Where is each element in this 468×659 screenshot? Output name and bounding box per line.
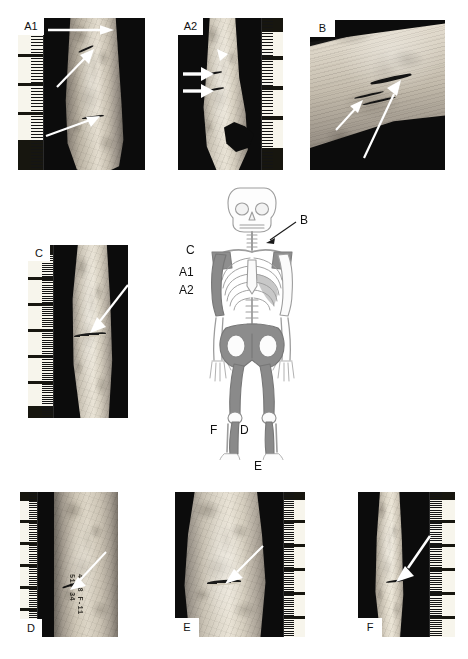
skeleton-callout-a1: A1 bbox=[179, 266, 194, 278]
panel-a1: A1 bbox=[18, 18, 145, 170]
skeleton-callout-c: C bbox=[186, 244, 195, 256]
panel-a1-arrow-top bbox=[46, 24, 116, 36]
panel-c-scale-bar bbox=[28, 245, 54, 418]
panel-f-scale-bar bbox=[429, 492, 455, 637]
panel-f-arrow-diagonal bbox=[390, 534, 432, 588]
panel-f-label: F bbox=[367, 622, 374, 633]
panel-e: E bbox=[175, 492, 305, 637]
panel-d-arrow-diagonal bbox=[64, 550, 108, 594]
panel-a2-arrow-middle bbox=[182, 66, 216, 82]
panel-b: B bbox=[310, 20, 445, 170]
skeleton-callout-e: E bbox=[254, 460, 262, 472]
panel-a2: A2 bbox=[178, 18, 283, 170]
panel-a1-arrow-middle bbox=[54, 46, 98, 90]
panel-e-arrow-diagonal bbox=[217, 544, 265, 590]
panel-a2-label-notch: A2 bbox=[178, 18, 203, 35]
panel-a2-label: A2 bbox=[184, 21, 197, 32]
panel-b-label: B bbox=[319, 23, 326, 34]
panel-a1-bone bbox=[62, 18, 124, 170]
panel-b-label-notch: B bbox=[310, 20, 335, 37]
panel-a2-arrow-lower bbox=[182, 83, 216, 99]
panel-a1-photo bbox=[18, 18, 145, 170]
panel-c-label: C bbox=[35, 248, 43, 259]
panel-a1-label: A1 bbox=[24, 21, 37, 32]
skeleton-callout-a2: A2 bbox=[179, 284, 194, 296]
panel-c: C bbox=[28, 245, 128, 418]
panel-d-scale-bar bbox=[20, 492, 38, 637]
panel-e-label: E bbox=[183, 622, 190, 633]
panel-b-photo bbox=[310, 20, 445, 170]
panel-d-label: D bbox=[27, 623, 35, 634]
panel-f-photo bbox=[358, 492, 455, 637]
panel-d: 4 18 F-11 513 34 D bbox=[20, 492, 118, 637]
panel-c-photo bbox=[28, 245, 128, 418]
panel-c-arrow-diagonal bbox=[84, 283, 128, 335]
panel-a1-label-notch: A1 bbox=[18, 18, 44, 35]
panel-a1-scale-bar bbox=[18, 18, 44, 170]
panel-a1-arrow-lower bbox=[44, 114, 104, 140]
panel-e-scale-bar bbox=[283, 492, 305, 637]
panel-e-label-notch: E bbox=[175, 618, 199, 637]
panel-c-label-notch: C bbox=[28, 245, 50, 261]
skeleton-callout-f: F bbox=[210, 424, 217, 436]
skeleton-diagram: C A1 A2 B F D E bbox=[178, 182, 326, 460]
figure-plate: A1 bbox=[0, 0, 468, 659]
panel-a2-photo bbox=[178, 18, 283, 170]
skeleton-callout-b: B bbox=[300, 214, 308, 226]
panel-f: F bbox=[358, 492, 455, 637]
panel-b-arrow-long bbox=[362, 78, 406, 160]
panel-d-photo: 4 18 F-11 513 34 bbox=[20, 492, 118, 637]
panel-f-label-notch: F bbox=[358, 618, 382, 637]
panel-a2-arrow-upper-small bbox=[216, 48, 230, 64]
skeleton-callout-d: D bbox=[240, 424, 249, 436]
panel-a2-scale-bar bbox=[261, 18, 283, 170]
panel-d-label-notch: D bbox=[20, 619, 42, 637]
panel-e-photo bbox=[175, 492, 305, 637]
